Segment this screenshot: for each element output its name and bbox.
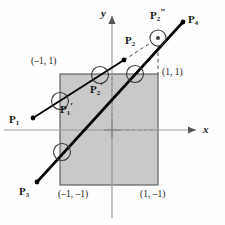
label-p4-subscript: 4 [195, 19, 198, 26]
endpoint-p3-dot [35, 180, 40, 185]
label-p2-double-prime-mark: ″ [160, 7, 165, 18]
endpoint-p2-double-prime-dot [156, 36, 160, 40]
label-p2-double-prime-base: P [150, 9, 157, 21]
y-axis-label: y [101, 8, 106, 19]
label-p4: P4 [188, 12, 198, 27]
label-p1-prime-mark: ′ [70, 101, 73, 112]
endpoint-p1-dot [31, 116, 36, 121]
label-p2-double-prime: P2″ [150, 8, 165, 23]
label-p2-base: P [125, 34, 132, 46]
label-p1-prime: P1′ [60, 102, 73, 117]
label-p4-base: P [188, 13, 195, 25]
label-p1-prime-base: P [60, 103, 67, 115]
label-p2-prime: P2′ [90, 82, 103, 97]
label-p2: P2 [125, 33, 135, 48]
corner-label-top-left: (–1, 1) [31, 57, 56, 67]
corner-label-bottom-right: (1, –1) [140, 190, 165, 200]
label-p3: P3 [19, 184, 29, 199]
endpoint-p4-dot [181, 20, 186, 25]
label-p1-base: P [9, 113, 16, 125]
corner-label-top-right: (1, 1) [162, 68, 183, 78]
line-clipping-figure: x y (–1, 1) (1, 1) (–1, –1) (1, –1) P1 P… [0, 0, 225, 225]
x-axis-arrowhead [188, 126, 196, 133]
label-p3-subscript: 3 [26, 191, 29, 198]
label-p2-prime-base: P [90, 83, 97, 95]
endpoint-p2-dot [122, 58, 127, 63]
y-axis-arrowhead [108, 16, 115, 24]
label-p2-prime-mark: ′ [100, 81, 103, 92]
corner-label-bottom-left: (–1, –1) [58, 190, 88, 200]
x-axis-label: x [203, 124, 209, 135]
label-p2-subscript: 2 [132, 40, 135, 47]
diagram-canvas [0, 0, 225, 225]
label-p3-base: P [19, 185, 26, 197]
label-p1: P1 [9, 112, 19, 127]
label-p1-subscript: 1 [16, 119, 19, 126]
